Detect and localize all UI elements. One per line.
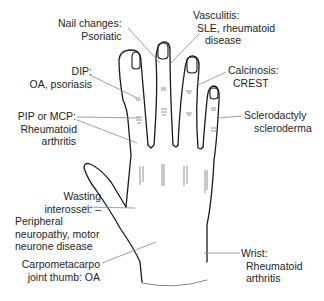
label-vasculitis: Vasculitis:SLE, rheumatoiddisease	[193, 9, 275, 47]
label-text: neuropathy, motor	[15, 228, 99, 240]
label-text: Psoriatic	[81, 30, 121, 42]
label-wasting-cause: Peripheralneuropathy, motorneurone disea…	[15, 215, 99, 253]
label-dip: DIP:OA, psoriasis	[25, 65, 92, 90]
label-text: CREST	[228, 77, 269, 89]
label-text: Sclerodactyly	[244, 109, 306, 121]
label-wrist: Wrist:Rheumatoidarthritis	[241, 247, 303, 285]
label-text: DIP:	[72, 65, 92, 77]
label-sclerodactyly: Sclerodactylyscleroderma	[244, 109, 312, 134]
label-text: interossei: –	[44, 203, 101, 215]
leader-lines	[77, 28, 242, 263]
label-text: OA, psoriasis	[30, 78, 92, 90]
label-carpometacarpo: Carpometacarpojoint thumb: OA	[14, 258, 100, 283]
hand-outline	[84, 42, 219, 286]
label-text: PIP or MCP:	[18, 110, 76, 122]
label-wasting-interossei: Wastinginterossei: –	[14, 190, 101, 215]
label-pip-mcp: PIP or MCP:Rheumatoidarthritis	[10, 110, 76, 148]
label-nail-changes: Nail changes:Psoriatic	[58, 17, 122, 42]
label-text: arthritis	[241, 272, 280, 284]
label-text: Vasculitis:	[193, 9, 240, 21]
label-text: Calcinosis:	[228, 64, 279, 76]
label-text: scleroderma	[244, 122, 312, 134]
label-text: arthritis	[42, 135, 76, 147]
hand-diagram: Nail changes:Psoriatic Vasculitis:SLE, r…	[0, 0, 324, 301]
label-calcinosis: Calcinosis:CREST	[228, 64, 279, 89]
label-text: SLE, rheumatoid	[193, 22, 275, 34]
label-text: disease	[193, 34, 241, 46]
label-text: Wasting	[63, 190, 101, 202]
label-text: Rheumatoid	[20, 123, 77, 135]
label-text: Nail changes:	[58, 17, 122, 29]
label-text: Carpometacarpo	[22, 258, 100, 270]
label-text: Wrist:	[241, 247, 268, 259]
label-text: neurone disease	[15, 240, 93, 252]
fingernails	[132, 43, 218, 99]
label-text: Peripheral	[15, 215, 63, 227]
label-text: Rheumatoid	[241, 260, 303, 272]
label-text: joint thumb: OA	[28, 271, 100, 283]
